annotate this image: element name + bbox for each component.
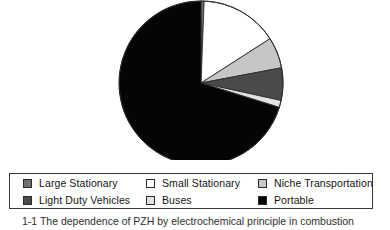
chart-legend: Large Stationary Small Stationary Niche …: [9, 173, 373, 209]
legend-item-light-duty-vehicles[interactable]: Light Duty Vehicles: [10, 192, 144, 209]
figure-pie-chart: Large Stationary Small Stationary Niche …: [0, 0, 390, 230]
legend-label: Light Duty Vehicles: [39, 195, 130, 206]
legend-label: Buses: [162, 195, 192, 206]
legend-row: Light Duty Vehicles Buses Portable: [10, 192, 372, 209]
legend-label: Small Stationary: [162, 178, 240, 189]
figure-caption: 1-1 The dependence of PZH by electrochem…: [22, 215, 372, 230]
swatch-niche-transportation: [258, 179, 267, 188]
swatch-small-stationary: [146, 179, 155, 188]
legend-row: Large Stationary Small Stationary Niche …: [10, 175, 372, 192]
swatch-buses: [146, 196, 155, 205]
swatch-portable: [258, 196, 267, 205]
pie-chart-area: [0, 0, 390, 160]
legend-item-buses[interactable]: Buses: [144, 192, 256, 209]
legend-label: Large Stationary: [39, 178, 118, 189]
swatch-light-duty-vehicles: [23, 196, 32, 205]
legend-item-portable[interactable]: Portable: [256, 192, 372, 209]
legend-label: Portable: [274, 195, 314, 206]
figure-caption-text: 1-1 The dependence of PZH by electrochem…: [22, 215, 372, 228]
legend-item-niche-transportation[interactable]: Niche Transportation: [256, 175, 372, 192]
pie-chart-svg: [0, 0, 390, 160]
swatch-large-stationary: [23, 179, 32, 188]
legend-item-large-stationary[interactable]: Large Stationary: [10, 175, 144, 192]
legend-item-small-stationary[interactable]: Small Stationary: [144, 175, 256, 192]
legend-label: Niche Transportation: [274, 178, 373, 189]
